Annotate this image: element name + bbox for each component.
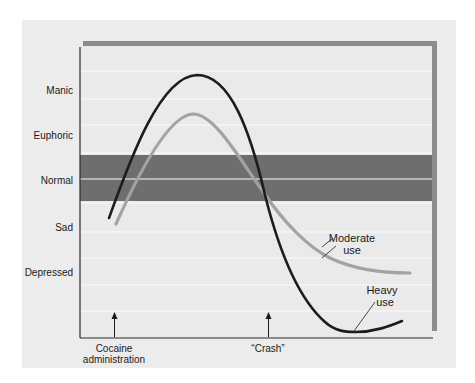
y-label-depressed: Depressed bbox=[25, 267, 73, 278]
y-label-euphoric: Euphoric bbox=[34, 130, 73, 141]
cocaine-label-line1: Cocaine bbox=[96, 343, 133, 354]
heavy-use-label-line2: use bbox=[376, 296, 394, 308]
cocaine-label-line2: administration bbox=[83, 354, 145, 365]
moderate-use-label-line2: use bbox=[343, 244, 361, 256]
y-label-normal: Normal bbox=[41, 175, 73, 186]
chart-figure: Manic Euphoric Normal Sad Depressed Coca… bbox=[0, 0, 475, 383]
y-label-manic: Manic bbox=[46, 85, 73, 96]
crash-label: “Crash” bbox=[251, 343, 284, 354]
y-label-sad: Sad bbox=[55, 222, 73, 233]
frame-right-bar bbox=[432, 41, 437, 331]
heavy-use-label-line1: Heavy bbox=[366, 284, 398, 296]
frame-top-bar bbox=[83, 41, 437, 46]
moderate-use-label-line1: Moderate bbox=[329, 232, 375, 244]
